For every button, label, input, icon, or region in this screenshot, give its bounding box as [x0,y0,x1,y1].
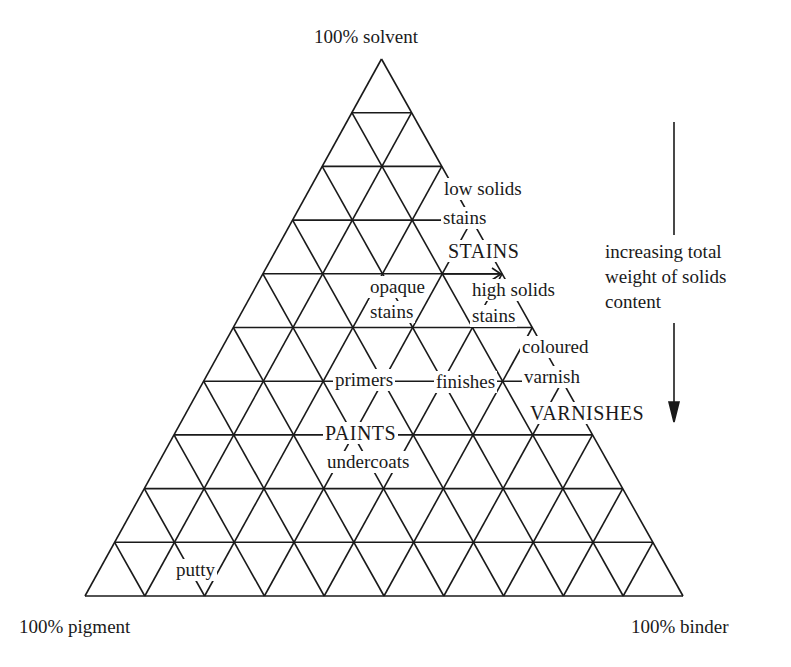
label-stains-group: STAINS [446,240,521,262]
label-coloured: coloured [520,336,590,358]
axis-note-line-2: weight of solids [603,264,728,289]
label-varnishes-group: VARNISHES [528,402,646,424]
label-varnish: varnish [522,366,582,388]
label-opaque: opaque [368,276,427,298]
corner-label-binder: 100% binder [629,616,731,638]
label-finishes: finishes [434,371,497,393]
label-high-solids: high solids [470,279,557,301]
axis-note-line-1: increasing total [603,239,724,264]
ternary-diagram [0,0,791,667]
axis-note-line-3: content [603,289,663,314]
corner-label-solvent: 100% solvent [312,26,420,48]
label-high-solids-stains: stains [470,305,517,327]
label-low-solids: low solids [442,178,524,200]
label-putty: putty [174,559,217,581]
label-low-solids-stains: stains [441,207,488,229]
label-undercoats: undercoats [325,451,411,473]
label-primers: primers [333,369,395,391]
label-opaque-stains: stains [368,301,415,323]
label-paints-group: PAINTS [323,422,398,444]
triangle-grid [85,59,683,596]
corner-label-pigment: 100% pigment [17,616,132,638]
